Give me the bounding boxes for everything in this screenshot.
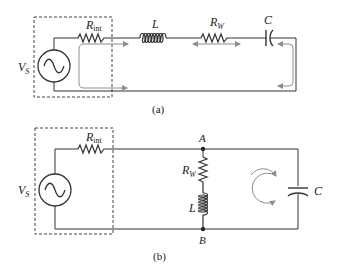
inductor-icon-a	[140, 34, 166, 43]
circuit-a: VS Rint L RW C (a)	[18, 13, 296, 116]
rint-label-b: Rint	[85, 130, 103, 145]
resistor-rint-icon-b	[78, 145, 109, 153]
caption-b: (b)	[153, 250, 166, 263]
current-arrows-a	[79, 44, 293, 88]
cap-label-b: C	[314, 184, 323, 198]
inductor-label-a: L	[151, 17, 159, 31]
cap-label-a: C	[264, 13, 273, 27]
ac-source-icon-a	[38, 50, 70, 82]
circulating-current-icon	[251, 169, 276, 203]
circuit-b: VS Rint A B RW L C (b)	[18, 128, 323, 263]
node-a-label: A	[198, 132, 206, 144]
vs-label-a: VS	[18, 60, 29, 76]
rw-label-a: RW	[209, 15, 225, 31]
resistor-rint-icon-a	[78, 34, 108, 42]
node-b-label: B	[199, 234, 206, 246]
caption-a: (a)	[152, 103, 165, 116]
vs-label-b: VS	[18, 183, 29, 199]
inductor-icon-b	[199, 193, 208, 229]
rint-label-a: Rint	[85, 18, 103, 33]
resistor-rw-icon-b	[199, 157, 207, 193]
ac-source-icon-b	[39, 174, 71, 206]
inductor-label-b: L	[188, 201, 196, 215]
resistor-rw-icon-a	[201, 34, 232, 42]
rw-label-b: RW	[181, 163, 197, 179]
